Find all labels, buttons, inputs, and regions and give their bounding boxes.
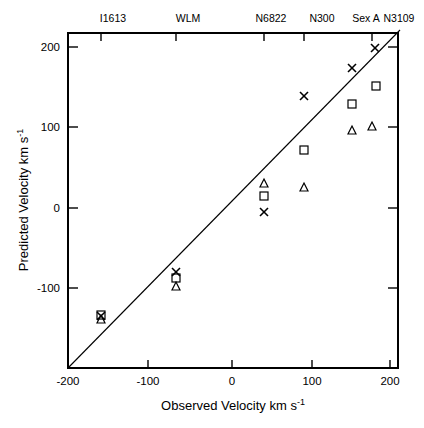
x-axis-ticks [148, 360, 390, 368]
y-tick-label-200: 200 [41, 41, 60, 53]
series-x-markers [97, 44, 379, 320]
x-tick-label-2: 0 [229, 375, 235, 387]
y-tick-labels: 200 100 0 -100 [37, 41, 60, 294]
top-label-n6822: N6822 [256, 12, 287, 24]
right-axis-ticks [388, 47, 398, 288]
data-point-triangle [368, 122, 376, 130]
top-label-i1613: I1613 [100, 12, 126, 24]
y-tick-label-0: 0 [54, 202, 60, 214]
data-point-square [300, 146, 308, 154]
x-tick-label-4: 200 [380, 375, 399, 387]
data-point-x [300, 92, 308, 100]
series-square-markers [97, 82, 380, 319]
top-axis-annotations: I1613 WLM N6822 N300 Sex A N3109 [100, 12, 415, 24]
y-tick-label-neg100: -100 [37, 282, 60, 294]
data-point-x [371, 44, 379, 52]
data-point-square [260, 192, 268, 200]
x-tick-label-3: 100 [302, 375, 321, 387]
y-axis-title: Predicted Velocity km s-1 [15, 129, 31, 271]
one-to-one-line [68, 30, 400, 368]
y-tick-label-100: 100 [41, 121, 60, 133]
data-point-square [372, 82, 380, 90]
top-label-sex-a: Sex A [352, 12, 379, 24]
scatter-plot: I1613 WLM N6822 N300 Sex A N3109 [0, 0, 424, 428]
x-tick-label-0: -200 [56, 375, 79, 387]
data-point-x [348, 64, 356, 72]
data-point-x [172, 268, 180, 276]
top-axis-ticks [101, 33, 372, 41]
y-axis-ticks [68, 47, 78, 288]
data-point-triangle [300, 183, 308, 191]
data-point-square [348, 100, 356, 108]
figure-panel: I1613 WLM N6822 N300 Sex A N3109 [0, 0, 424, 428]
data-point-triangle [260, 179, 268, 187]
x-tick-labels: -200 -100 0 100 200 [56, 375, 399, 387]
top-label-wlm: WLM [176, 12, 201, 24]
data-point-triangle [172, 282, 180, 290]
data-point-x [260, 208, 268, 216]
top-label-n3109: N3109 [384, 12, 415, 24]
top-label-n300: N300 [309, 12, 334, 24]
data-point-triangle [348, 126, 356, 134]
series-triangle-markers [97, 122, 376, 323]
x-tick-label-1: -100 [136, 375, 159, 387]
x-axis-title: Observed Velocity km s-1 [161, 397, 305, 413]
